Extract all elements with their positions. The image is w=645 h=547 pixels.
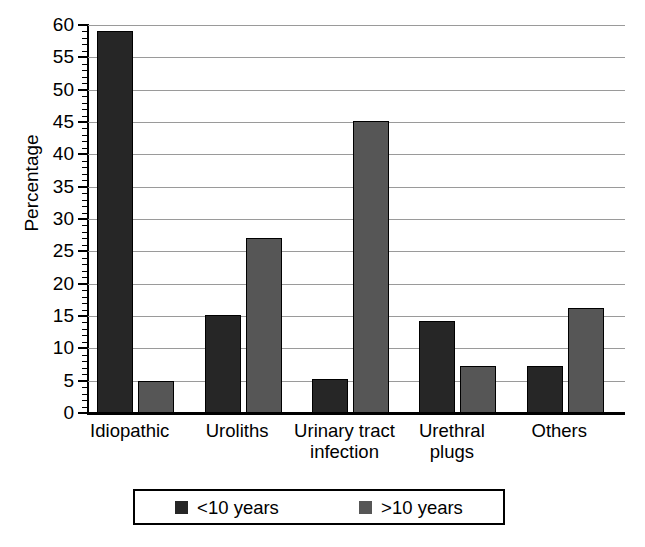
bar (246, 238, 282, 413)
y-axis-tick-label: 15 (26, 306, 74, 325)
y-axis-tick-label: 55 (26, 47, 74, 66)
x-axis-category-label: Others (506, 420, 613, 441)
x-axis-category-label: Idiopathic (76, 420, 183, 441)
legend-label: >10 years (381, 498, 463, 517)
bar (138, 381, 174, 413)
x-axis-category-label-line: Others (506, 420, 613, 441)
y-axis-tick-label: 20 (26, 274, 74, 293)
gridline (88, 90, 625, 91)
y-axis-tick (78, 283, 88, 285)
y-axis-tick-label: 0 (26, 403, 74, 422)
x-axis-category-label: Uroliths (183, 420, 290, 441)
y-axis-tick-label: 35 (26, 177, 74, 196)
y-axis-tick-label: 50 (26, 80, 74, 99)
x-axis-category-label-line: Idiopathic (76, 420, 183, 441)
x-axis-category-label-line: plugs (398, 441, 505, 462)
legend-swatch-icon (175, 501, 188, 514)
x-axis-category-label-line: infection (291, 441, 398, 462)
x-axis-category-label: Urethralplugs (398, 420, 505, 462)
bar (312, 379, 348, 413)
legend-entry: <10 years (175, 498, 279, 517)
y-axis-tick (78, 218, 88, 220)
figure-caption (68, 537, 628, 547)
y-axis-tick-label: 25 (26, 241, 74, 260)
y-axis-tick (78, 380, 88, 382)
bar (97, 31, 133, 413)
x-axis-category-label-line: Uroliths (183, 420, 290, 441)
y-axis-tick-label: 40 (26, 144, 74, 163)
legend-entry: >10 years (359, 498, 463, 517)
y-axis-tick-label: 45 (26, 112, 74, 131)
bar (353, 121, 389, 413)
y-axis-tick (78, 24, 88, 26)
y-axis-tick (78, 56, 88, 58)
gridline (88, 57, 625, 58)
bar (460, 366, 496, 413)
y-axis-tick-label: 5 (26, 371, 74, 390)
y-axis-tick (78, 153, 88, 155)
bar-chart: Percentage 051015202530354045505560 Idio… (0, 0, 645, 547)
legend-swatch-icon (359, 501, 372, 514)
y-axis-tick (78, 89, 88, 91)
y-axis-tick (78, 412, 88, 414)
y-axis-tick (78, 250, 88, 252)
plot-area (88, 25, 625, 413)
bar (205, 315, 241, 413)
bar (419, 321, 455, 413)
y-axis-tick (78, 186, 88, 188)
y-axis-tick-label: 30 (26, 209, 74, 228)
bar (527, 366, 563, 413)
y-axis-tick-label: 10 (26, 338, 74, 357)
bar (568, 308, 604, 413)
x-axis-category-label-line: Urinary tract (291, 420, 398, 441)
x-axis-category-label-line: Urethral (398, 420, 505, 441)
y-axis-tick (78, 315, 88, 317)
y-axis-tick-label: 60 (26, 15, 74, 34)
gridline (88, 25, 625, 26)
x-axis-category-label: Urinary tractinfection (291, 420, 398, 462)
legend: <10 years>10 years (133, 489, 505, 525)
y-axis-tick (78, 347, 88, 349)
legend-label: <10 years (197, 498, 279, 517)
y-axis-tick (78, 121, 88, 123)
